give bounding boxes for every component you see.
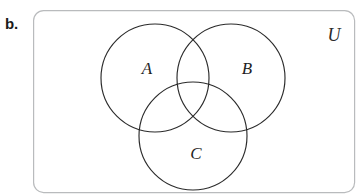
universal-set-label: U	[328, 25, 342, 45]
set-a-label: A	[141, 59, 153, 78]
venn-diagram-canvas: A B C U	[0, 0, 361, 196]
venn-diagram-figure: b. A B C U	[0, 0, 361, 196]
set-c-label: C	[190, 144, 202, 163]
set-b-label: B	[242, 59, 253, 78]
